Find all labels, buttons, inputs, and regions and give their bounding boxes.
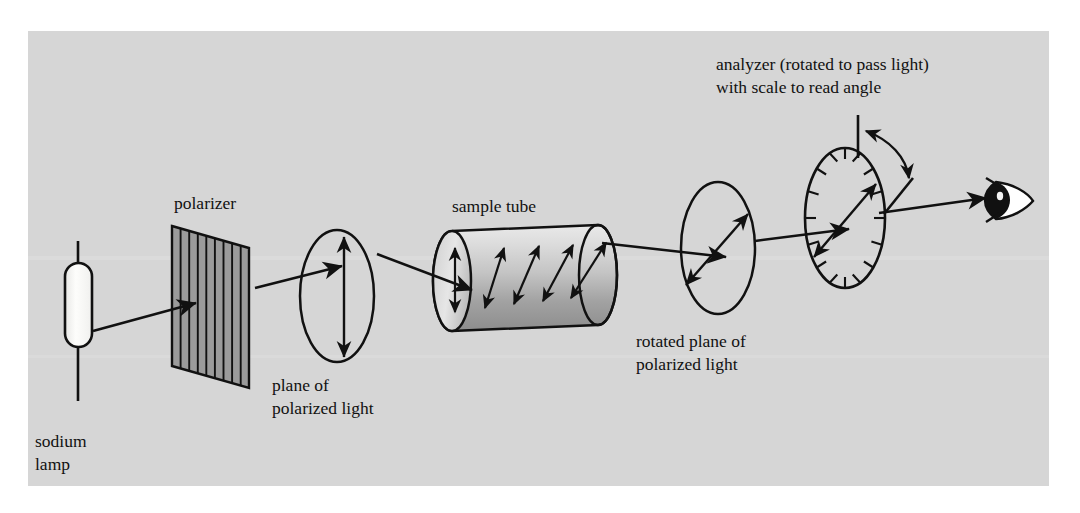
label-sodium-lamp-line1: sodium xyxy=(35,431,87,451)
sample-tube xyxy=(433,225,617,331)
label-plane-of-polarized-light-line2: polarized light xyxy=(272,398,374,418)
lamp-bulb xyxy=(65,263,92,347)
polarimeter-diagram: sodium lamp polarizer plane of polarized… xyxy=(0,0,1080,513)
label-sample-tube: sample tube xyxy=(452,196,536,216)
label-analyzer-line2: with scale to read angle xyxy=(716,77,881,97)
label-polarizer: polarizer xyxy=(174,193,236,213)
tube-near-end xyxy=(433,231,471,331)
diagram-canvas: sodium lamp polarizer plane of polarized… xyxy=(0,0,1080,513)
label-sodium-lamp-line2: lamp xyxy=(35,454,70,474)
label-analyzer-line1: analyzer (rotated to pass light) xyxy=(716,54,929,74)
label-rotated-plane-line1: rotated plane of xyxy=(636,331,746,351)
label-plane-of-polarized-light-line1: plane of xyxy=(272,375,329,395)
label-rotated-plane-line2: polarized light xyxy=(636,354,738,374)
eye-highlight xyxy=(997,192,1003,200)
